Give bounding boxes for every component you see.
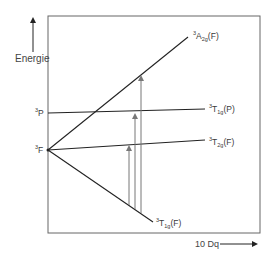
- label-3T1g-F: 3T1g(F): [156, 218, 181, 230]
- energy-diagram-canvas: [0, 0, 273, 262]
- line-3T1g-F: [48, 150, 153, 222]
- label-3T2g-F: 3T2g(F): [209, 137, 234, 149]
- term-3F: 3F: [35, 145, 43, 155]
- line-3T1g-P: [48, 109, 205, 113]
- line-3A2g-F: [48, 37, 188, 150]
- 3F-origin-point: [47, 149, 50, 152]
- label-3T1g-P: 3T1g(P): [209, 104, 235, 116]
- term-3P: 3P: [35, 108, 44, 118]
- line-3T2g-F: [48, 140, 205, 150]
- label-3A2g-F: 3A2g(F): [193, 31, 219, 43]
- y-axis-label: Energie: [15, 54, 49, 64]
- x-axis-label: 10 Dq: [195, 240, 219, 249]
